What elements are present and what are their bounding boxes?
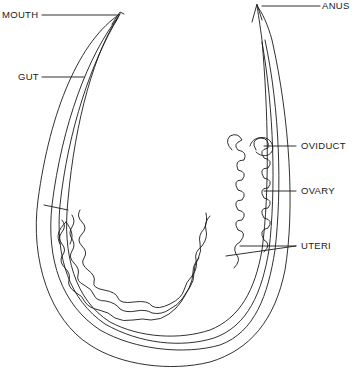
gut-line-2 <box>59 18 273 343</box>
label-anus: ANUS <box>322 1 350 11</box>
label-gut: GUT <box>18 72 39 82</box>
uterus-tube-3 <box>78 210 210 308</box>
ovary-coils-inner <box>227 135 245 268</box>
label-ovary: OVARY <box>301 186 335 196</box>
label-oviduct: OVIDUCT <box>301 141 346 151</box>
uterus-tube-1 <box>70 213 207 314</box>
body-wall-inner <box>67 6 268 336</box>
uterus-loop-left <box>44 205 72 244</box>
label-mouth: MOUTH <box>2 10 38 20</box>
worm-anatomy-diagram: MOUTH GUT ANUS OVIDUCT OVARY UTERI <box>0 0 357 382</box>
label-uteri: UTERI <box>301 241 331 251</box>
